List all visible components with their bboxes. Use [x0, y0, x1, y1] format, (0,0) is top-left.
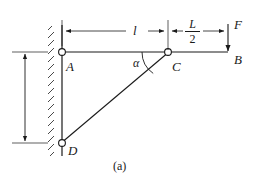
- figure-container: A C D B F α l L 2 (a): [0, 0, 254, 180]
- wall-hatching: [36, 16, 54, 180]
- label-joint-d: D: [68, 144, 77, 157]
- label-end-b: B: [234, 53, 242, 66]
- strut-member-cd: [64, 54, 167, 141]
- pin-joint-d: [59, 140, 66, 147]
- dimension-extension-lines: [62, 20, 168, 50]
- engineering-diagram-canvas: [0, 0, 254, 180]
- half-L-denominator: 2: [185, 33, 200, 46]
- label-dimension-half-L: L 2: [185, 18, 200, 45]
- label-joint-c: C: [172, 60, 181, 73]
- label-angle-alpha: α: [133, 57, 139, 69]
- label-dimension-l: l: [133, 24, 137, 37]
- half-L-numerator: L: [185, 18, 200, 31]
- label-force-f: F: [234, 18, 242, 31]
- label-joint-a: A: [66, 60, 74, 73]
- pin-joint-a: [59, 49, 66, 56]
- figure-caption: (a): [113, 160, 126, 172]
- dimension-vertical-height: [12, 52, 48, 143]
- fixed-wall-support: [36, 16, 62, 180]
